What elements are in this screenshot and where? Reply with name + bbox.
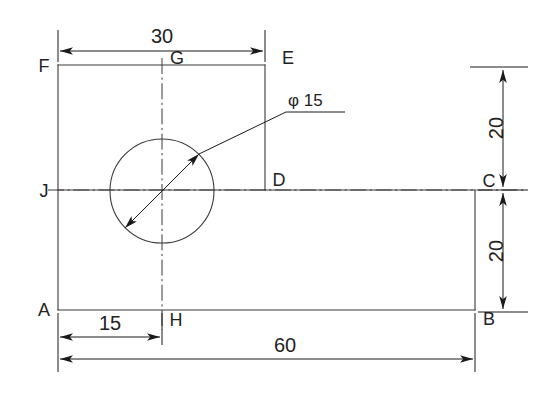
hole-leader-line — [199, 112, 286, 154]
dim60-label: 60 — [274, 334, 296, 356]
hole-callout-label: φ 15 — [288, 91, 323, 110]
dimension-60 — [60, 313, 475, 372]
vertex-label-G: G — [170, 48, 184, 68]
vertex-label-J: J — [40, 181, 49, 201]
vertex-label-D: D — [273, 170, 286, 190]
dim30-label: 30 — [151, 25, 173, 47]
part-outline — [58, 65, 475, 310]
vertex-label-F: F — [39, 56, 50, 76]
drawing-svg: φ 15 30 20 20 — [0, 0, 544, 397]
vertex-label-E: E — [282, 48, 294, 68]
vertex-label-H: H — [170, 310, 183, 330]
dim20bot-label: 20 — [485, 240, 507, 262]
hole-dim-arrow-upper-right — [162, 154, 199, 191]
vertex-label-B: B — [483, 309, 495, 329]
centre-lines — [48, 58, 525, 330]
technical-drawing-canvas: φ 15 30 20 20 — [0, 0, 544, 397]
hole-diameter-dimension — [125, 112, 345, 228]
hole-dim-arrow-lower-left — [125, 191, 162, 228]
dim20top-label: 20 — [485, 117, 507, 139]
vertex-label-A: A — [38, 300, 50, 320]
dim15-label: 15 — [99, 312, 121, 334]
vertex-label-C: C — [483, 171, 496, 191]
